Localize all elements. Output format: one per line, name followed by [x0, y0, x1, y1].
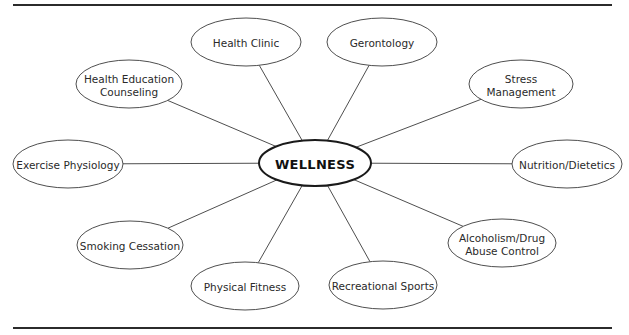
wellness-diagram: Health ClinicGerontologyHealth Education… — [0, 0, 629, 335]
node-stress-management: StressManagement — [469, 60, 573, 108]
node-label: Management — [486, 86, 555, 98]
connector-smoking-cessation — [168, 180, 277, 228]
node-label: Smoking Cessation — [80, 240, 180, 252]
node-label: Counseling — [100, 86, 158, 98]
connector-stress-management — [356, 99, 481, 147]
node-nutrition-dietetics: Nutrition/Dietetics — [512, 140, 622, 188]
node-recreational-sports: Recreational Sports — [329, 261, 437, 309]
node-health-clinic: Health Clinic — [191, 18, 301, 66]
connector-recreational-sports — [327, 185, 370, 261]
node-label: Recreational Sports — [332, 280, 435, 292]
node-exercise-physiology: Exercise Physiology — [13, 140, 123, 188]
hub-node: WELLNESS — [259, 140, 371, 186]
node-label: Abuse Control — [465, 245, 539, 257]
node-gerontology: Gerontology — [327, 18, 437, 66]
connector-gerontology — [327, 65, 369, 140]
node-label: Health Education — [84, 73, 174, 85]
connector-alcoholism-drug-abuse-control — [354, 180, 463, 227]
node-label: Health Clinic — [213, 37, 280, 49]
node-health-education-counseling: Health EducationCounseling — [76, 60, 182, 108]
node-label: Alcoholism/Drug — [459, 232, 545, 244]
node-label: Gerontology — [350, 37, 415, 49]
node-label: Nutrition/Dietetics — [519, 159, 615, 171]
node-label: Stress — [505, 73, 537, 85]
node-alcoholism-drug-abuse-control: Alcoholism/DrugAbuse Control — [448, 219, 556, 267]
hub-label: WELLNESS — [275, 157, 355, 172]
node-label: Physical Fitness — [204, 281, 286, 293]
node-label: Exercise Physiology — [16, 159, 119, 171]
connector-physical-fitness — [258, 185, 302, 262]
connector-health-clinic — [259, 65, 302, 140]
node-smoking-cessation: Smoking Cessation — [77, 221, 183, 269]
node-physical-fitness: Physical Fitness — [191, 262, 299, 310]
connector-health-education-counseling — [168, 100, 276, 146]
connector-exercise-physiology — [123, 163, 259, 164]
connector-nutrition-dietetics — [371, 163, 512, 164]
